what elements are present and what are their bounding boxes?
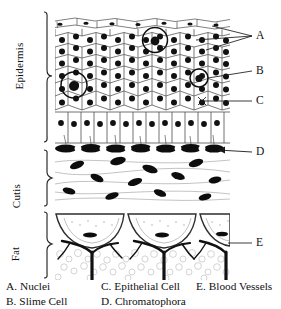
legend-key-a: A. (6, 280, 17, 292)
layer-label-fat: Fat (9, 231, 21, 277)
legend-item-e: E.Blood Vessels (196, 280, 272, 292)
legend-key-d: D. (101, 295, 112, 307)
figure-canvas: Epidermis Cutis Fat A B C D E A.Nuclei C… (0, 0, 281, 309)
legend-item-a: A.Nuclei (6, 280, 50, 292)
callout-label-b: B (256, 64, 264, 76)
callout-label-d: D (256, 145, 264, 157)
callout-label-c: C (256, 94, 264, 106)
legend-key-c: C. (101, 280, 111, 292)
layer-label-epidermis: Epidermis (13, 29, 25, 103)
legend-item-c: C.Epithelial Cell (101, 280, 180, 292)
callout-label-a: A (256, 29, 264, 41)
legend-item-b: B.Slime Cell (6, 295, 67, 307)
epidermis-layer (55, 8, 230, 148)
figure-legend: A.Nuclei C.Epithelial Cell E.Blood Vesse… (0, 280, 281, 309)
brace-fat (44, 212, 52, 278)
fat-layer (55, 206, 230, 281)
legend-label-c: Epithelial Cell (114, 280, 180, 292)
brace-cutis (44, 150, 52, 206)
layer-braces (44, 12, 52, 278)
legend-label-b: Slime Cell (19, 295, 67, 307)
layer-label-cutis: Cutis (10, 168, 22, 224)
cutis-layer (55, 153, 230, 206)
leader-line-D (218, 147, 252, 154)
legend-label-d: Chromatophora (115, 295, 186, 307)
legend-key-e: E. (196, 280, 206, 292)
legend-key-b: B. (6, 295, 16, 307)
brace-epidermis (44, 12, 52, 142)
legend-item-d: D.Chromatophora (101, 295, 186, 307)
skin-cross-section-diagram (0, 0, 281, 309)
legend-label-e: Blood Vessels (209, 280, 273, 292)
legend-label-a: Nuclei (20, 280, 50, 292)
callout-label-e: E (256, 236, 263, 248)
